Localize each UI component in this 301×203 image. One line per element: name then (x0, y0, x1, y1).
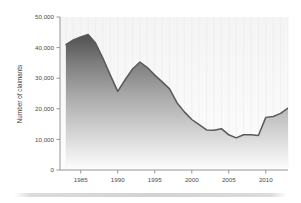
x-tick-label: 1995 (148, 176, 162, 183)
x-tick-label: 1985 (74, 176, 88, 183)
claimants-area-chart: 010,00020,00030,00040,00050,000 19851990… (0, 0, 301, 203)
y-tick-label: 30,000 (35, 74, 54, 81)
y-tick-label: 10,000 (35, 136, 54, 143)
x-tick-label: 2010 (259, 176, 273, 183)
x-tick-label: 2000 (185, 176, 199, 183)
x-tick-label: 1990 (111, 176, 125, 183)
y-tick-label: 20,000 (35, 105, 54, 112)
y-axis-title: Number of claimants (16, 65, 23, 124)
y-tick-label: 0 (51, 166, 55, 173)
chart-figure: 010,00020,00030,00040,00050,000 19851990… (0, 0, 301, 203)
y-tick-label: 40,000 (35, 44, 54, 51)
footer-divider-bar (14, 193, 287, 197)
y-tick-label: 50,000 (35, 13, 54, 20)
x-tick-label: 2005 (222, 176, 236, 183)
